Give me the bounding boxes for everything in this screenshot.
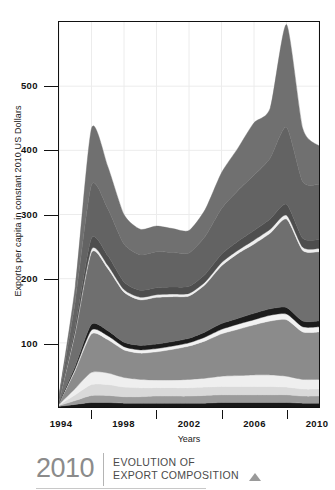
y-tick-label: 400 xyxy=(0,144,38,155)
x-tick-label: 1994 xyxy=(41,418,81,429)
y-axis-title: Exports per capita in constant 2010 US D… xyxy=(13,71,23,331)
footer-title-line-2: EXPORT COMPOSITION xyxy=(113,469,239,482)
chart-figure: Exports per capita in constant 2010 US D… xyxy=(0,0,335,490)
y-tick-label: 100 xyxy=(0,338,38,349)
x-tick-mark xyxy=(91,410,92,419)
y-tick-mark xyxy=(44,344,58,345)
footer-title-line-1: EVOLUTION OF xyxy=(113,456,261,469)
x-tick-mark xyxy=(222,410,223,419)
triangle-icon xyxy=(249,473,261,481)
footer-text-block: EVOLUTION OF EXPORT COMPOSITION xyxy=(104,452,261,486)
footer-year: 2010 xyxy=(36,452,103,486)
footer-caption: 2010 EVOLUTION OF EXPORT COMPOSITION xyxy=(36,452,261,486)
x-tick-label: 2006 xyxy=(235,418,275,429)
y-tick-mark xyxy=(44,279,58,280)
x-tick-label: 2002 xyxy=(169,418,209,429)
y-tick-mark xyxy=(44,150,58,151)
y-tick-mark xyxy=(44,215,58,216)
footer-rule xyxy=(36,488,206,489)
plot-area xyxy=(58,21,320,408)
y-tick-mark xyxy=(44,86,58,87)
x-axis-title: Years xyxy=(58,434,320,444)
footer-title-row-2: EXPORT COMPOSITION xyxy=(113,469,261,482)
x-tick-mark xyxy=(156,410,157,419)
y-tick-label: 500 xyxy=(0,80,38,91)
y-tick-label: 200 xyxy=(0,273,38,284)
y-tick-label: 300 xyxy=(0,209,38,220)
x-tick-label: 2010 xyxy=(297,418,335,429)
stacked-area-svg xyxy=(59,22,319,407)
x-tick-label: 1998 xyxy=(104,418,144,429)
x-tick-mark xyxy=(287,410,288,419)
